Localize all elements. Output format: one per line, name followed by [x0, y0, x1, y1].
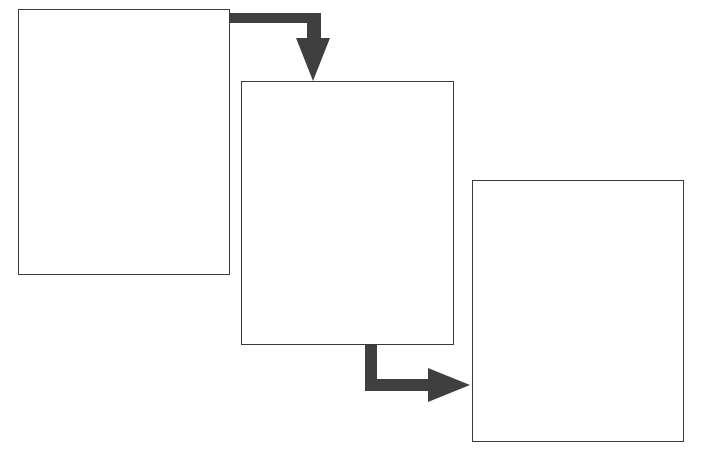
connector-arrows [0, 0, 706, 454]
arrow-box1-to-box2-icon [230, 13, 330, 81]
arrow-box2-to-box3-icon [365, 345, 470, 402]
